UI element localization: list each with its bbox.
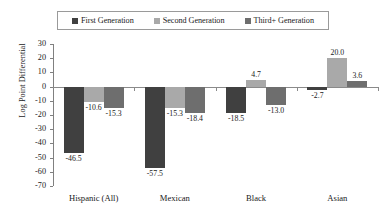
y-tick-label: -10	[24, 96, 46, 105]
y-tick-label: -50	[24, 153, 46, 162]
y-tick-mark: 30	[50, 44, 53, 45]
legend-label-third-plus-generation: Third+ Generation	[254, 16, 314, 25]
legend-label-second-generation: Second Generation	[163, 16, 225, 25]
bar-value-label: -46.5	[58, 154, 90, 163]
bar	[347, 81, 367, 86]
x-axis-category-label: Hispanic (All)	[53, 193, 134, 203]
bar-value-label: 3.6	[341, 71, 373, 80]
legend-swatch-third-plus-generation	[245, 18, 251, 24]
y-tick-mark: -10	[50, 101, 53, 102]
legend-label-first-generation: First Generation	[81, 16, 134, 25]
y-tick-label: 20	[24, 53, 46, 62]
y-tick-mark: -70	[50, 186, 53, 187]
x-axis-category-label: Black	[216, 193, 297, 203]
y-tick-label: -70	[24, 181, 46, 190]
y-tick-label: 10	[24, 67, 46, 76]
bar	[185, 87, 205, 113]
x-axis-tick	[216, 87, 217, 91]
y-tick-mark: -20	[50, 115, 53, 116]
bar-value-label: -15.3	[98, 109, 130, 118]
x-axis-tick	[378, 87, 379, 91]
bar-value-label: -18.4	[179, 114, 211, 123]
bar-value-label: -2.7	[301, 91, 333, 100]
y-tick-label: 0	[24, 82, 46, 91]
chart-legend: First Generation Second Generation Third…	[57, 11, 329, 30]
x-axis-category-label: Asian	[297, 193, 378, 203]
bar	[104, 87, 124, 109]
bar	[226, 87, 246, 113]
x-axis-category-label: Mexican	[134, 193, 215, 203]
bar-chart: First Generation Second Generation Third…	[0, 0, 386, 216]
y-tick-label: -60	[24, 167, 46, 176]
y-axis-line	[53, 44, 54, 186]
legend-item-second-generation: Second Generation	[154, 16, 225, 25]
bar	[246, 80, 266, 87]
bar-value-label: 20.0	[321, 48, 353, 57]
x-axis-tick	[297, 87, 298, 91]
legend-item-first-generation: First Generation	[72, 16, 134, 25]
y-tick-mark: -60	[50, 172, 53, 173]
bar	[266, 87, 286, 105]
y-tick-mark: -50	[50, 158, 53, 159]
plot-area: 3020100-10-20-30-40-50-60-70 -46.5-10.6-…	[53, 44, 378, 186]
bar-value-label: -18.5	[220, 114, 252, 123]
bar	[165, 87, 185, 109]
legend-item-third-plus-generation: Third+ Generation	[245, 16, 314, 25]
y-tick-mark: 20	[50, 58, 53, 59]
y-tick-label: -20	[24, 110, 46, 119]
bar-value-label: -13.0	[260, 106, 292, 115]
bar	[64, 87, 84, 153]
bar	[84, 87, 104, 102]
bar-value-label: 4.7	[240, 70, 272, 79]
y-tick-label: 30	[24, 39, 46, 48]
y-tick-mark: -30	[50, 129, 53, 130]
y-tick-label: -40	[24, 138, 46, 147]
legend-swatch-first-generation	[72, 18, 78, 24]
legend-swatch-second-generation	[154, 18, 160, 24]
bar	[145, 87, 165, 169]
y-tick-mark: -40	[50, 143, 53, 144]
bar	[307, 87, 327, 91]
y-tick-mark: 10	[50, 72, 53, 73]
bar-value-label: -57.5	[139, 169, 171, 178]
x-axis-tick	[134, 87, 135, 91]
y-tick-label: -30	[24, 124, 46, 133]
